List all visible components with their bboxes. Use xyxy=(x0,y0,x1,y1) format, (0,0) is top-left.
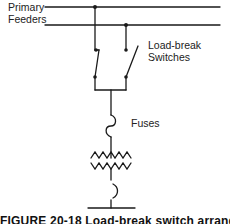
label-feeders: Feeders xyxy=(8,13,47,25)
junction-dot xyxy=(124,23,128,27)
switch-contact-dot xyxy=(124,48,128,52)
label-switches: Switches xyxy=(148,51,190,63)
fuse-symbol xyxy=(106,115,115,137)
junction-dot xyxy=(93,5,97,9)
right-load-break-switch xyxy=(126,46,138,77)
switch-contact-dot xyxy=(124,75,128,79)
left-load-break-switch xyxy=(95,50,99,77)
label-load-break: Load-break xyxy=(148,39,201,51)
figure-caption: FIGURE 20-18 Load-break switch arrangeme… xyxy=(0,214,230,224)
switch-contact-dot xyxy=(93,75,97,79)
label-primary: Primary xyxy=(8,1,44,13)
transformer-secondary-winding xyxy=(91,163,131,169)
label-fuses: Fuses xyxy=(131,117,160,129)
schematic-diagram xyxy=(0,0,230,224)
junction-dots xyxy=(93,5,128,79)
switch-contact-dot xyxy=(94,48,98,52)
ground-arc-symbol xyxy=(113,184,118,198)
